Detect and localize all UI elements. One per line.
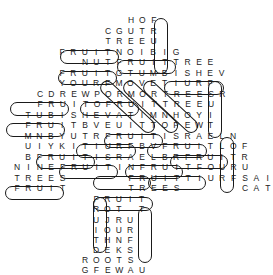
letter-cell[interactable]: O <box>125 47 135 57</box>
letter-cell[interactable]: E <box>103 120 113 130</box>
found-word-loop-fruit <box>93 176 151 190</box>
letter-cell[interactable]: U <box>125 215 135 225</box>
letter-cell[interactable]: O <box>137 15 147 25</box>
found-word-loop-fruit <box>5 186 64 200</box>
letter-cell[interactable]: G <box>80 265 90 275</box>
letter-cell[interactable]: V <box>217 68 227 78</box>
letter-cell[interactable]: A <box>126 265 136 275</box>
letter-cell[interactable]: W <box>114 265 124 275</box>
letter-cell[interactable]: R <box>23 173 33 183</box>
letter-cell[interactable]: R <box>80 255 90 265</box>
letter-cell[interactable]: F <box>240 141 250 151</box>
letter-cell[interactable]: R <box>125 225 135 235</box>
letter-cell[interactable]: R <box>58 89 68 99</box>
letter-cell[interactable]: B <box>23 152 33 162</box>
found-word-loop-fruit <box>208 81 222 138</box>
letter-cell[interactable]: E <box>46 173 56 183</box>
letter-cell[interactable]: R <box>183 57 193 67</box>
letter-cell[interactable]: T <box>114 255 124 265</box>
letter-cell[interactable]: H <box>126 15 136 25</box>
letter-cell[interactable]: A <box>194 131 204 141</box>
letter-cell[interactable]: E <box>103 265 113 275</box>
found-word-loop-fruit <box>93 197 107 253</box>
letter-cell[interactable]: O <box>91 255 101 265</box>
letter-cell[interactable]: T <box>12 173 22 183</box>
letter-cell[interactable]: U <box>206 173 216 183</box>
letter-cell[interactable]: A <box>251 173 261 183</box>
letter-cell[interactable]: U <box>126 26 136 36</box>
letter-cell[interactable]: R <box>91 131 101 141</box>
found-word-loop-fruit <box>10 102 69 116</box>
letter-cell[interactable]: I <box>34 141 44 151</box>
letter-cell[interactable]: S <box>125 245 135 255</box>
found-word-loop-fruit <box>60 50 119 64</box>
letter-cell[interactable]: I <box>263 173 273 183</box>
letter-cell[interactable]: G <box>114 26 124 36</box>
found-word-loop-tiurf <box>138 207 152 263</box>
letter-cell[interactable]: K <box>114 245 124 255</box>
letter-cell[interactable]: T <box>103 36 113 46</box>
letter-cell[interactable]: S <box>69 110 79 120</box>
letter-cell[interactable]: U <box>69 131 79 141</box>
found-word-loop-fruit <box>6 123 65 137</box>
letter-cell[interactable]: I <box>137 47 147 57</box>
letter-cell[interactable]: F <box>91 265 101 275</box>
letter-cell[interactable]: U <box>114 120 124 130</box>
letter-cell[interactable]: C <box>103 26 113 36</box>
letter-cell[interactable]: U <box>240 162 250 172</box>
letter-cell[interactable]: U <box>137 265 147 275</box>
letter-cell[interactable]: H <box>194 68 204 78</box>
letter-cell[interactable]: A <box>251 183 261 193</box>
letter-cell[interactable]: T <box>80 131 90 141</box>
letter-cell[interactable]: I <box>23 162 33 172</box>
letter-cell[interactable]: E <box>183 99 193 109</box>
letter-cell[interactable]: V <box>91 120 101 130</box>
letter-cell[interactable]: E <box>137 36 147 46</box>
found-word-loop-tiurf <box>148 176 206 190</box>
letter-cell[interactable]: C <box>240 183 250 193</box>
letter-cell[interactable]: E <box>194 57 204 67</box>
letter-cell[interactable]: Y <box>46 141 56 151</box>
letter-cell[interactable]: B <box>80 120 90 130</box>
letter-cell[interactable]: R <box>114 215 124 225</box>
letter-cell[interactable]: N <box>114 235 124 245</box>
letter-cell[interactable]: S <box>126 255 136 265</box>
letter-cell[interactable]: T <box>263 183 273 193</box>
letter-cell[interactable]: T <box>137 26 147 36</box>
letter-cell[interactable]: G <box>171 47 181 57</box>
letter-cell[interactable]: E <box>69 89 79 99</box>
letter-cell[interactable]: E <box>137 152 147 162</box>
letter-cell[interactable]: S <box>240 173 250 183</box>
letter-cell[interactable]: E <box>205 57 215 67</box>
letter-cell[interactable]: U <box>114 225 124 235</box>
letter-cell[interactable]: U <box>23 141 33 151</box>
letter-cell[interactable]: E <box>205 68 215 78</box>
letter-cell[interactable]: C <box>35 89 45 99</box>
letter-cell[interactable]: I <box>69 99 79 109</box>
letter-cell[interactable]: Y <box>194 110 204 120</box>
letter-cell[interactable]: T <box>69 120 79 130</box>
letter-cell[interactable]: R <box>114 36 124 46</box>
letter-cell[interactable]: S <box>182 68 192 78</box>
letter-cell[interactable]: K <box>57 141 67 151</box>
found-word-loop-fruit <box>117 60 176 74</box>
letter-cell[interactable]: E <box>126 36 136 46</box>
letter-cell[interactable]: O <box>103 255 113 265</box>
letter-cell[interactable]: R <box>240 152 250 162</box>
letter-cell[interactable]: W <box>81 89 91 99</box>
letter-cell[interactable]: D <box>46 89 56 99</box>
letter-cell[interactable]: E <box>195 99 205 109</box>
letter-cell[interactable]: N <box>12 162 22 172</box>
letter-cell[interactable]: F <box>125 235 135 245</box>
letter-cell[interactable]: E <box>35 173 45 183</box>
